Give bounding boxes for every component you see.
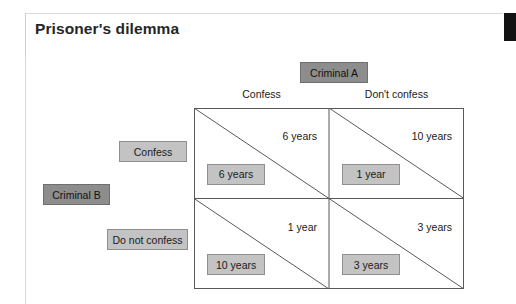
title-accent-rule xyxy=(25,13,26,57)
payoff-column-player: 3 years xyxy=(418,221,452,233)
payoff-column-player: 1 year xyxy=(288,221,317,233)
column-player-label: Criminal A xyxy=(300,62,368,83)
slide-canvas: Prisoner's dilemma Criminal A Criminal B… xyxy=(0,0,516,304)
corner-accent-block xyxy=(504,13,516,41)
row-header-do-not-confess: Do not confess xyxy=(107,229,188,250)
payoff-matrix: 6 years 6 years 10 years 1 year 1 year 1… xyxy=(194,108,464,289)
page-title: Prisoner's dilemma xyxy=(35,20,179,38)
payoff-row-player: 6 years xyxy=(207,164,265,185)
column-header-dont-confess: Don't confess xyxy=(329,88,464,100)
row-header-confess: Confess xyxy=(119,141,187,162)
column-header-confess: Confess xyxy=(194,88,329,100)
matrix-cell-dontconfess-dontconfess: 3 years 3 years xyxy=(329,199,464,290)
payoff-column-player: 10 years xyxy=(412,130,452,142)
matrix-cell-dontconfess-confess: 1 year 10 years xyxy=(194,199,329,290)
payoff-row-player: 10 years xyxy=(207,254,265,275)
matrix-cell-confess-dontconfess: 10 years 1 year xyxy=(329,108,464,199)
payoff-row-player: 1 year xyxy=(342,164,400,185)
payoff-column-player: 6 years xyxy=(283,130,317,142)
payoff-row-player: 3 years xyxy=(342,254,400,275)
matrix-cell-confess-confess: 6 years 6 years xyxy=(194,108,329,199)
row-player-label: Criminal B xyxy=(43,184,110,205)
